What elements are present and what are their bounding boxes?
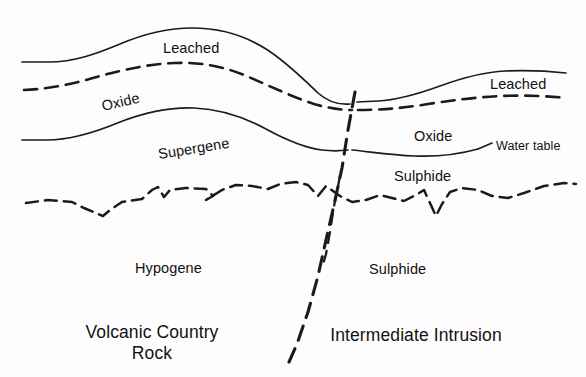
leached-oxide-contact-left xyxy=(24,63,352,110)
label-sulphide-upper: Sulphide xyxy=(394,168,451,184)
label-supergene: Supergene xyxy=(157,135,230,162)
water-table-leader xyxy=(478,143,492,149)
water-table-line xyxy=(352,149,478,156)
supergene-hypogene-contact xyxy=(26,182,576,216)
label-sulphide-lower: Sulphide xyxy=(369,261,426,277)
label-water-table: Water table xyxy=(496,139,561,153)
label-hypogene: Hypogene xyxy=(135,260,202,276)
label-oxide-left: Oxide xyxy=(100,90,141,114)
label-volcanic-country-rock-line1: Volcanic Country xyxy=(86,322,219,342)
cross-section-svg: Leached Leached Oxide Oxide Supergene Su… xyxy=(0,0,586,377)
label-leached-left: Leached xyxy=(163,40,219,56)
label-oxide-right: Oxide xyxy=(414,128,452,144)
label-leached-right: Leached xyxy=(490,76,546,92)
geological-cross-section-diagram: Leached Leached Oxide Oxide Supergene Su… xyxy=(0,0,586,377)
label-intermediate-intrusion: Intermediate Intrusion xyxy=(330,325,501,345)
leached-oxide-contact-right xyxy=(358,96,566,110)
fault-line-main xyxy=(289,92,355,362)
label-volcanic-country-rock-line2: Rock xyxy=(132,343,172,363)
